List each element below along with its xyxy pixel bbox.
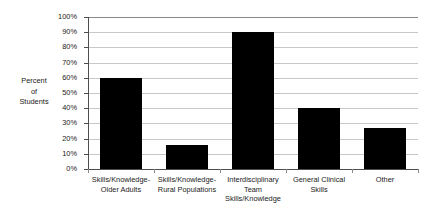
x-axis-tick [88, 169, 89, 173]
x-axis-tick [220, 169, 221, 173]
y-axis-tick: 30% [84, 123, 88, 124]
y-axis-tick-label: 40% [62, 104, 77, 111]
y-axis-tick: 40% [84, 108, 88, 109]
x-axis-line [88, 169, 418, 170]
y-axis-tick-label: 20% [62, 135, 77, 142]
bar [298, 108, 340, 169]
bar [166, 145, 208, 169]
y-axis-tick: 80% [84, 47, 88, 48]
x-axis-category-label: General Clinical Skills [286, 175, 352, 194]
y-axis-tick-label: 90% [62, 28, 77, 35]
x-axis-tick [418, 169, 419, 173]
y-axis-tick: 50% [84, 93, 88, 94]
bar [100, 78, 142, 169]
bar-chart: Percent of Students 0%10%20%30%40%50%60%… [0, 0, 431, 223]
y-axis-tick: 10% [84, 154, 88, 155]
y-axis-title: Percent of Students [6, 76, 62, 108]
y-axis-tick-label: 60% [62, 74, 77, 81]
y-axis-tick-label: 10% [62, 150, 77, 157]
y-axis-tick: 90% [84, 32, 88, 33]
y-axis-tick-label: 0% [66, 165, 77, 172]
y-axis-tick-label: 50% [62, 89, 77, 96]
y-axis-tick: 20% [84, 139, 88, 140]
x-axis-category-label: Interdisciplinary Team Skills/Knowledge [220, 175, 286, 204]
x-axis-tick [352, 169, 353, 173]
plot-area: 0%10%20%30%40%50%60%70%80%90%100% [88, 17, 418, 169]
bar [232, 32, 274, 169]
x-axis-category-label: Other [352, 175, 418, 185]
y-axis-tick: 60% [84, 78, 88, 79]
x-axis-tick [154, 169, 155, 173]
gridline [89, 17, 418, 18]
y-axis-tick: 70% [84, 63, 88, 64]
y-axis-tick-label: 30% [62, 120, 77, 127]
y-axis-tick-label: 100% [58, 13, 77, 20]
y-axis-tick-label: 70% [62, 59, 77, 66]
x-axis-tick [286, 169, 287, 173]
y-axis-tick-label: 80% [62, 44, 77, 51]
y-axis-tick: 100% [84, 17, 88, 18]
bar [364, 128, 406, 169]
x-axis-category-label: Skills/Knowledge- Rural Populations [154, 175, 220, 194]
x-axis-category-label: Skills/Knowledge- Older Adults [88, 175, 154, 194]
